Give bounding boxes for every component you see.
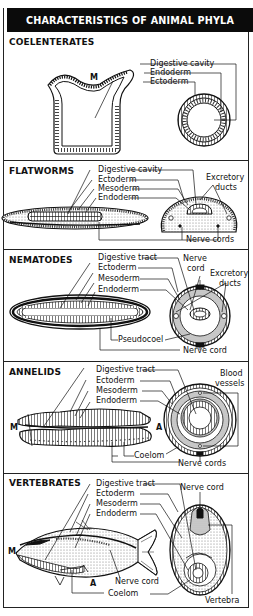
label-mouth: M bbox=[10, 424, 18, 432]
section-title-annelids: ANNELIDS bbox=[9, 367, 61, 377]
divider-nematodes bbox=[3, 249, 249, 250]
divider-flatworms bbox=[3, 160, 249, 161]
section-title-nematodes: NEMATODES bbox=[9, 255, 73, 265]
label-nerve-cords: Nerve cords bbox=[186, 236, 234, 244]
label-endoderm: Endoderm bbox=[96, 510, 137, 518]
label-anus: A bbox=[156, 424, 162, 432]
section-title-vertebrates: VERTEBRATES bbox=[9, 478, 81, 488]
label-mesoderm: Mesoderm bbox=[98, 275, 140, 283]
label-digestive-cavity: Digestive cavity bbox=[150, 60, 214, 68]
label-mouth: M bbox=[90, 74, 98, 82]
label-nerve-cords: Nerve cords bbox=[178, 460, 226, 468]
label-digestive-tract: Digestive tract bbox=[96, 366, 155, 374]
label-vertebra: Vertebra bbox=[205, 597, 239, 605]
label-excretory-ducts-line1: Excretory bbox=[206, 174, 244, 182]
label-mesoderm: Mesoderm bbox=[98, 185, 140, 193]
divider-vertebrates bbox=[3, 473, 249, 474]
label-ectoderm: Ectoderm bbox=[96, 490, 134, 498]
label-nerve-cord: Nerve cord bbox=[183, 347, 227, 355]
label-anus: A bbox=[90, 580, 96, 588]
label-endoderm: Endoderm bbox=[150, 69, 191, 77]
label-nerve-cord: Nerve cord bbox=[115, 578, 159, 586]
label-ectoderm: Ectoderm bbox=[98, 264, 136, 272]
label-coelom: Coelom bbox=[134, 452, 164, 460]
label-excretory-ducts-line2: ducts bbox=[215, 184, 237, 192]
label-nerve-cord-top-line2: cord bbox=[187, 265, 205, 273]
label-nerve-cord-top-line1: Nerve bbox=[183, 255, 207, 263]
label-excretory-ducts-line2: ducts bbox=[219, 280, 241, 288]
label-endoderm: Endoderm bbox=[96, 397, 137, 405]
label-coelom: Coelom bbox=[108, 590, 138, 598]
label-blood-vessels-line1: Blood bbox=[220, 370, 243, 378]
label-digestive-tract: Digestive tract bbox=[96, 480, 155, 488]
label-ectoderm: Ectoderm bbox=[150, 78, 188, 86]
label-digestive-cavity: Digestive cavity bbox=[98, 166, 162, 174]
label-pseudocoel: Pseudocoel bbox=[118, 336, 163, 344]
label-blood-vessels-line2: vessels bbox=[215, 380, 244, 388]
label-mouth: M bbox=[8, 548, 16, 556]
label-endoderm: Endoderm bbox=[98, 286, 139, 294]
label-ectoderm: Ectoderm bbox=[98, 176, 136, 184]
label-excretory-ducts-line1: Excretory bbox=[210, 270, 248, 278]
label-mesoderm: Mesoderm bbox=[96, 500, 138, 508]
label-ectoderm: Ectoderm bbox=[96, 377, 134, 385]
label-nerve-cord-top: Nerve cord bbox=[180, 484, 224, 492]
label-endoderm: Endoderm bbox=[98, 194, 139, 202]
section-title-flatworms: FLATWORMS bbox=[9, 166, 74, 176]
label-digestive-tract: Digestive tract bbox=[98, 254, 157, 262]
coelenterate-longitudinal bbox=[48, 70, 134, 154]
divider-annelids bbox=[3, 361, 249, 362]
phyla-illustrations bbox=[0, 0, 253, 616]
section-title-coelenterates: COELENTERATES bbox=[9, 37, 94, 47]
label-mesoderm: Mesoderm bbox=[96, 387, 138, 395]
